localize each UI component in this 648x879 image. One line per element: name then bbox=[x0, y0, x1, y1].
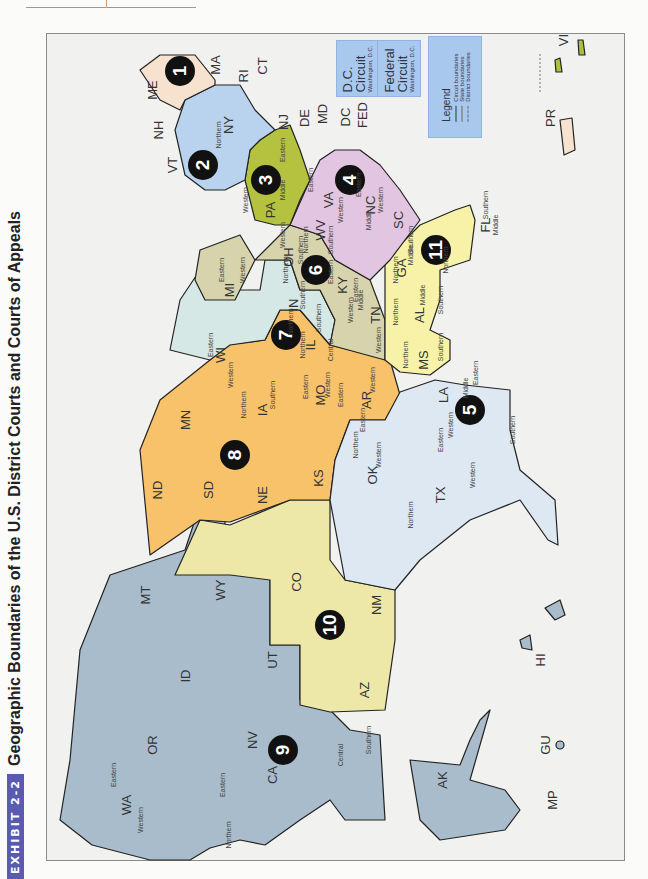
circuit-marker-2: 2 bbox=[188, 150, 218, 180]
state-label-tn: TN bbox=[368, 306, 383, 323]
state-label-nm: NM bbox=[369, 595, 384, 615]
state-label-wi: WI bbox=[213, 347, 228, 363]
district-label-al-middle: Middle bbox=[419, 285, 426, 306]
state-label-ny: NY bbox=[221, 116, 236, 134]
district-label-in-southern: Southern bbox=[299, 281, 306, 309]
state-label-va: VA bbox=[321, 192, 336, 208]
page-title: Geographic Boundaries of the U.S. Distri… bbox=[6, 211, 24, 766]
district-label-pa-middle: Middle bbox=[279, 180, 286, 201]
state-label-nj: NJ bbox=[276, 114, 291, 130]
state-label-pr: PR bbox=[543, 109, 558, 127]
circuit-marker-5: 5 bbox=[455, 395, 485, 425]
state-label-ct: CT bbox=[255, 57, 270, 74]
district-label-ms-southern: Southern bbox=[437, 333, 444, 361]
district-label-pa-eastern: Eastern bbox=[279, 138, 286, 162]
state-label-al: AL bbox=[412, 307, 427, 323]
state-label-tx: TX bbox=[433, 487, 448, 504]
legend-box: Legend Circuit boundaries State boundari… bbox=[428, 36, 482, 138]
district-label-tx-eastern: Eastern bbox=[437, 428, 444, 452]
virgin-islands-2 bbox=[578, 40, 585, 55]
district-label-fl-northern: Northern bbox=[442, 246, 449, 273]
district-label-mo-eastern: Eastern bbox=[302, 375, 309, 399]
district-label-wa-western: Western bbox=[137, 807, 144, 833]
circuit-marker-3: 3 bbox=[251, 165, 281, 195]
district-label-ga-southern: Southern bbox=[407, 226, 414, 254]
circuit-marker-1: 1 bbox=[165, 56, 195, 86]
district-label-wa-eastern: Eastern bbox=[110, 763, 117, 787]
district-label-oh-northern: Northern bbox=[282, 256, 289, 283]
state-label-ms: MS bbox=[416, 350, 431, 370]
state-label-pa: PA bbox=[263, 202, 278, 218]
district-label-fl-middle: Middle bbox=[492, 215, 499, 236]
district-label-pa-western: Western bbox=[279, 222, 286, 248]
district-label-nc-eastern: Eastern bbox=[355, 173, 362, 197]
hawaii-island-2 bbox=[520, 635, 532, 650]
state-label-ky: KY bbox=[335, 276, 350, 293]
district-label-ky-eastern: Eastern bbox=[327, 260, 334, 284]
state-label-ar: AR bbox=[359, 391, 374, 409]
state-label-wa: WA bbox=[119, 795, 134, 815]
state-label-de: DE bbox=[297, 109, 312, 127]
district-label-il-southern: Southern bbox=[315, 304, 322, 332]
district-label-va-western: Western bbox=[337, 197, 344, 223]
district-label-tx-northern: Northern bbox=[407, 501, 414, 528]
district-label-ia-southern: Southern bbox=[269, 381, 276, 409]
district-label-tx-western: Western bbox=[469, 462, 476, 488]
district-label-wi-eastern: Eastern bbox=[207, 333, 214, 357]
state-label-vt: VT bbox=[165, 157, 180, 174]
district-label-wv-southern: Southern bbox=[327, 226, 334, 254]
federal-circuit-box: Federal Circuit Washington, D.C. bbox=[377, 40, 421, 97]
district-label-oh-southern: Southern bbox=[297, 236, 304, 264]
district-label-ia-northern: Northern bbox=[240, 391, 247, 418]
district-label-ga-northern: Northern bbox=[392, 256, 399, 283]
district-label-ca-southern: Southern bbox=[365, 726, 372, 754]
state-label-ok: OK bbox=[365, 466, 380, 485]
legend-title: Legend bbox=[440, 52, 453, 122]
circuit-line-swatch bbox=[455, 106, 456, 122]
state-label-ri: RI bbox=[236, 70, 251, 83]
state-label-id: ID bbox=[178, 670, 193, 683]
circuit-marker-10: 10 bbox=[315, 610, 345, 640]
state-line-swatch bbox=[461, 106, 462, 122]
state-label-ca: CA bbox=[265, 766, 280, 784]
state-label-nd: ND bbox=[150, 481, 165, 500]
state-label-or: OR bbox=[145, 735, 160, 755]
state-label-ma: MA bbox=[208, 55, 223, 75]
exhibit-badge: EXHIBIT 2-2 bbox=[7, 774, 24, 879]
district-label-la-middle: Middle bbox=[462, 378, 469, 399]
state-label-ne: NE bbox=[255, 486, 270, 504]
state-label-vi: VI bbox=[556, 34, 571, 46]
district-label-tn-western: Western bbox=[375, 327, 382, 353]
state-label-wv: WV bbox=[313, 220, 328, 241]
district-label-il-central: Central bbox=[327, 339, 334, 362]
virgin-islands bbox=[555, 58, 562, 72]
district-label-nc-middle: Middle bbox=[365, 210, 372, 231]
district-label-ar-eastern: Eastern bbox=[337, 383, 344, 407]
dc-circuit-box: D.C. Circuit Washington, D.C. bbox=[336, 40, 378, 97]
state-label-fl: FL bbox=[478, 217, 493, 232]
state-label-nh: NH bbox=[151, 121, 166, 140]
state-label-mi: MI bbox=[222, 283, 237, 297]
district-label-ok-western: Western bbox=[375, 442, 382, 468]
state-label-me: ME bbox=[145, 80, 160, 100]
state-label-mn: MN bbox=[178, 410, 193, 430]
district-label-il-northern: Northern bbox=[299, 331, 306, 358]
district-label-mo-western: Western bbox=[324, 372, 331, 398]
district-label-ar-western: Western bbox=[369, 367, 376, 393]
circuit-marker-9: 9 bbox=[268, 735, 298, 765]
state-label-fed: FED bbox=[355, 102, 370, 128]
state-label-hi: HI bbox=[533, 654, 548, 667]
district-label-la-western: Western bbox=[447, 412, 454, 438]
state-label-nv: NV bbox=[245, 731, 260, 749]
district-label-wi-western: Western bbox=[227, 362, 234, 388]
district-label-va-eastern: Eastern bbox=[307, 168, 314, 192]
state-label-co: CO bbox=[289, 572, 304, 592]
district-label-ok-eastern: Eastern bbox=[359, 408, 366, 432]
state-label-ia: IA bbox=[255, 404, 270, 416]
state-label-dc: DC bbox=[338, 108, 353, 127]
district-label-la-eastern: Eastern bbox=[472, 361, 479, 385]
district-label-in-northern: Northern bbox=[287, 308, 294, 335]
hawaii-island bbox=[545, 600, 565, 620]
state-label-md: MD bbox=[315, 104, 330, 124]
district-label-al-northern: Northern bbox=[392, 298, 399, 325]
